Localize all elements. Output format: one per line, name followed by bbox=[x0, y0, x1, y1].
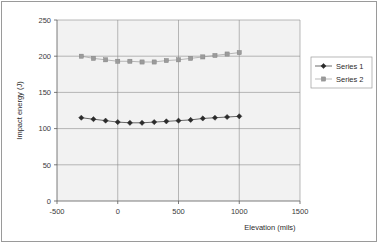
chart-legend: Series 1Series 2 bbox=[311, 57, 372, 88]
data-point-square bbox=[201, 55, 205, 59]
chart-frame: 050100150200250 -500050010001500 Impact … bbox=[1, 1, 377, 242]
y-tick-label: 150 bbox=[38, 88, 51, 97]
x-axis-tick-labels: -500050010001500 bbox=[49, 207, 308, 216]
legend-entry-label: Series 1 bbox=[336, 62, 364, 71]
data-point-square bbox=[176, 58, 180, 62]
data-point-square bbox=[189, 56, 193, 60]
x-tick-label: 0 bbox=[116, 207, 120, 216]
data-point-square bbox=[213, 53, 217, 57]
y-tick-label: 100 bbox=[38, 124, 51, 133]
data-point-square bbox=[128, 59, 132, 63]
y-tick-label: 0 bbox=[47, 197, 51, 206]
chart-canvas: 050100150200250 -500050010001500 Impact … bbox=[2, 2, 376, 241]
data-point-square bbox=[152, 60, 156, 64]
x-tick-label: -500 bbox=[49, 207, 64, 216]
data-point-square bbox=[79, 54, 83, 58]
data-point-square bbox=[237, 50, 241, 54]
data-point-square bbox=[140, 60, 144, 64]
y-tick-label: 250 bbox=[38, 16, 51, 25]
data-point-square bbox=[91, 56, 95, 60]
x-axis-title: Elevation (mils) bbox=[244, 223, 296, 232]
x-tick-label: 500 bbox=[172, 207, 185, 216]
x-axis-title-text: Elevation (mils) bbox=[244, 223, 296, 232]
data-point-square bbox=[104, 58, 108, 62]
data-point-square bbox=[225, 52, 229, 56]
y-axis-title: Impact energy (J) bbox=[15, 81, 24, 140]
y-tick-label: 50 bbox=[43, 161, 51, 170]
y-axis-title-text: Impact energy (J) bbox=[15, 81, 24, 140]
x-tick-label: 1000 bbox=[231, 207, 248, 216]
legend-entry-label: Series 2 bbox=[336, 75, 364, 84]
data-point-square bbox=[116, 59, 120, 63]
x-tick-label: 1500 bbox=[292, 207, 309, 216]
y-axis-tick-labels: 050100150200250 bbox=[38, 16, 51, 206]
legend-marker-square bbox=[321, 77, 325, 81]
y-tick-label: 200 bbox=[38, 52, 51, 61]
data-point-square bbox=[164, 58, 168, 62]
